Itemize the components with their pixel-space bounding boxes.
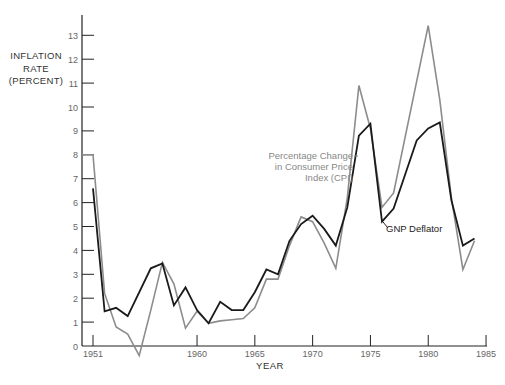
- x-tick-label: 1965: [245, 349, 265, 359]
- cpi-line: [82, 26, 475, 356]
- y-tick-label: 9: [73, 126, 78, 136]
- gnp-series-annotation: GNP Deflator: [386, 223, 442, 234]
- y-axis-label-line: RATE: [4, 63, 68, 76]
- y-tick-label: 11: [69, 79, 78, 89]
- annotation-leaders: [354, 156, 388, 228]
- x-tick-label: 1980: [418, 349, 438, 359]
- x-tick-label: 1960: [187, 349, 207, 359]
- y-axis-label-line: (PERCENT): [4, 75, 68, 88]
- y-tick-label: 3: [73, 270, 78, 280]
- cpi-annotation-line: Percentage Change: [255, 150, 353, 161]
- y-tick-label: 1: [73, 318, 78, 328]
- cpi-annotation-line: in Consumer Price: [255, 161, 353, 172]
- y-tick-label: 12: [68, 55, 78, 65]
- y-tick-label: 2: [73, 294, 78, 304]
- y-tick-label: 4: [73, 246, 78, 256]
- y-tick-label: 5: [73, 222, 78, 232]
- y-axis-label: INFLATION RATE (PERCENT): [4, 50, 68, 88]
- y-axis-label-line: INFLATION: [4, 50, 68, 63]
- chart-canvas: 0123456789101112131951196019651970197519…: [0, 0, 505, 385]
- y-tick-label: 0: [73, 342, 78, 352]
- y-tick-label: 13: [68, 31, 78, 41]
- x-tick-label: 1985: [476, 349, 496, 359]
- x-tick-label: 1970: [303, 349, 323, 359]
- x-axis-label: YEAR: [240, 360, 300, 371]
- cpi-annotation-line: Index (CPI): [255, 172, 353, 183]
- y-tick-label: 6: [73, 198, 78, 208]
- cpi-series-annotation: Percentage Change in Consumer Price Inde…: [255, 150, 353, 183]
- x-tick-label: 1951: [83, 349, 103, 359]
- series-lines: [82, 26, 475, 356]
- y-tick-label: 10: [68, 103, 78, 113]
- y-tick-label: 7: [73, 174, 78, 184]
- x-tick-label: 1975: [360, 349, 380, 359]
- y-tick-label: 8: [73, 150, 78, 160]
